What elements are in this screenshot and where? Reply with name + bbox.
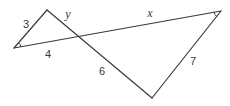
side-label-3: 3 (23, 18, 29, 30)
edge-slant-line-y-6 (47, 10, 152, 98)
edge-side-7 (152, 11, 221, 98)
angle-arc-right-vertex (214, 12, 217, 16)
side-label-7: 7 (190, 55, 196, 67)
edge-side-3 (14, 10, 47, 48)
geometry-diagram: 3 4 y x 6 7 (0, 0, 230, 106)
side-label-6: 6 (99, 65, 105, 77)
side-label-y: y (64, 7, 71, 21)
side-label-x: x (146, 6, 153, 20)
triangle-figure: 3 4 y x 6 7 (0, 0, 230, 106)
angle-arc-left-vertex (19, 43, 21, 47)
edge-long-line-4-x (14, 11, 221, 48)
side-label-4: 4 (45, 48, 51, 60)
